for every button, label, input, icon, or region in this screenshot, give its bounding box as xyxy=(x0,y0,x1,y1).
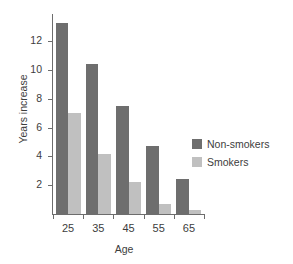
y-tick-label: 12 xyxy=(30,34,42,46)
y-tick: 10 xyxy=(48,70,52,71)
bar xyxy=(116,106,129,214)
x-tick xyxy=(174,214,175,219)
bar xyxy=(86,64,99,214)
x-tick xyxy=(83,214,84,219)
x-tick xyxy=(144,214,145,219)
bar xyxy=(189,210,202,214)
legend-swatch-smokers xyxy=(192,157,202,167)
x-tick xyxy=(113,214,114,219)
bar xyxy=(98,154,111,214)
y-tick-label: 2 xyxy=(36,178,42,190)
y-tick: 2 xyxy=(48,185,52,186)
bars-container xyxy=(53,14,204,214)
y-tick-label: 4 xyxy=(36,149,42,161)
y-tick: 4 xyxy=(48,156,52,157)
bar xyxy=(129,182,142,214)
bar xyxy=(68,113,81,214)
bar xyxy=(159,204,172,214)
legend-item-non-smokers: Non-smokers xyxy=(192,136,269,151)
legend-swatch-non-smokers xyxy=(192,139,202,149)
bar xyxy=(56,23,69,214)
bar-chart-figure: Years increase 24681012 2535455565 Age N… xyxy=(0,0,293,264)
x-axis-label: Age xyxy=(44,243,204,255)
bar xyxy=(176,179,189,214)
y-tick: 8 xyxy=(48,99,52,100)
y-tick: 6 xyxy=(48,128,52,129)
y-tick-label: 10 xyxy=(30,63,42,75)
x-tick xyxy=(204,214,205,219)
x-tick xyxy=(53,214,54,219)
legend: Non-smokers Smokers xyxy=(192,136,269,172)
x-tick-label: 65 xyxy=(169,222,209,234)
y-tick-label: 6 xyxy=(36,121,42,133)
legend-item-smokers: Smokers xyxy=(192,154,269,169)
y-tick: 12 xyxy=(48,41,52,42)
plot-area: 24681012 2535455565 xyxy=(52,14,204,214)
y-tick-label: 8 xyxy=(36,92,42,104)
y-axis-label: Years increase xyxy=(17,49,29,169)
bar xyxy=(146,146,159,214)
legend-label-smokers: Smokers xyxy=(207,156,248,168)
legend-label-non-smokers: Non-smokers xyxy=(207,138,269,150)
x-axis-line xyxy=(52,214,204,215)
